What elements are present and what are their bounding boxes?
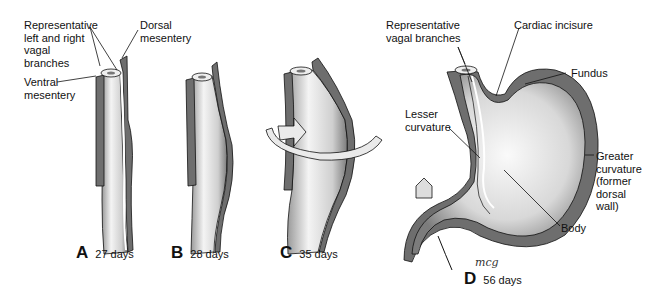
stage-letter: C [280,243,292,263]
stage-a-tube [96,56,133,254]
label-body: Body [561,222,586,235]
stage-days: 56 days [483,274,522,286]
stage-caption-a: A 27 days [76,243,134,263]
stage-days: 28 days [190,248,229,260]
stage-letter: B [171,243,183,263]
stage-days: 27 days [95,248,134,260]
stage-days: 35 days [299,248,338,260]
label-ventral-mesentery: Ventral mesentery [24,76,75,101]
stage-letter: D [464,269,476,289]
label-vagal-branches-a: Representative left and right vagal bran… [24,19,98,69]
stage-caption-d: D 56 days [464,269,522,289]
stage-d-stomach [404,66,598,270]
label-dorsal-mesentery: Dorsal mesentery [140,19,191,44]
stage-caption-b: B 28 days [171,243,229,263]
label-greater-curvature: Greater curvature (former dorsal wall) [596,150,651,213]
artist-signature: mcg [475,256,499,269]
stage-b-tube [186,62,233,254]
label-fundus: Fundus [571,67,608,80]
label-lesser-curvature: Lesser curvature [405,108,451,133]
stage-letter: A [76,243,88,263]
stage-caption-c: C 35 days [280,243,338,263]
label-cardiac-incisure: Cardiac incisure [514,19,593,32]
label-vagal-branches-d: Representative vagal branches [386,19,461,44]
